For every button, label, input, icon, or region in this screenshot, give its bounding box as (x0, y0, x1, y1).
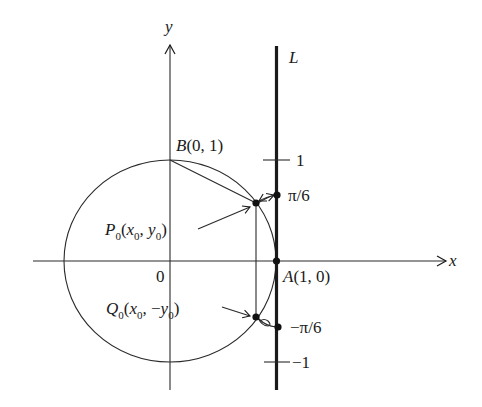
point-Q0 (252, 313, 259, 320)
tick-plus-one-label: 1 (296, 151, 305, 170)
point-P0-label: P0(x0, y0) (104, 220, 167, 242)
q0-close: ) (174, 299, 180, 318)
pointer-arrow-P0 (198, 207, 250, 229)
q0-name: Q (106, 299, 118, 318)
point-minus-pi-over-6 (274, 323, 281, 330)
tick-minus-one-label: −1 (292, 353, 310, 372)
point-B-label: B(0, 1) (176, 136, 223, 155)
q0-sep: , − (143, 299, 161, 318)
chord-B-P0 (170, 160, 256, 203)
point-Q0-label: Q0(x0, −y0) (106, 299, 179, 321)
pointer-arrow-Q0 (222, 307, 250, 316)
arc-label-lower: −π/6 (290, 318, 321, 337)
line-L-label: L (288, 48, 298, 67)
point-pi-over-6 (273, 191, 280, 198)
x-axis-label: x (448, 251, 457, 270)
p0-name: P (104, 220, 115, 239)
origin-label: 0 (156, 267, 165, 286)
p0-sep: , (140, 220, 149, 239)
point-A-label: A(1, 0) (282, 267, 330, 286)
point-B-name: B (176, 136, 187, 155)
point-A-name: A (282, 267, 294, 286)
point-A-coords: (1, 0) (293, 267, 330, 286)
point-B-coords: (0, 1) (186, 136, 223, 155)
q0-y: y (159, 299, 169, 318)
p0-close: ) (161, 220, 167, 239)
p0-y: y (146, 220, 156, 239)
point-A (273, 257, 280, 264)
wrap-arrow-upper-return (258, 195, 274, 203)
unit-circle-diagram: x y 0 L 1 −1 B(0, 1) A(1, 0) π/6 −π/6 P0… (0, 0, 482, 407)
y-axis-label: y (163, 17, 173, 36)
arc-label-upper: π/6 (288, 186, 310, 205)
point-P0 (252, 199, 259, 206)
